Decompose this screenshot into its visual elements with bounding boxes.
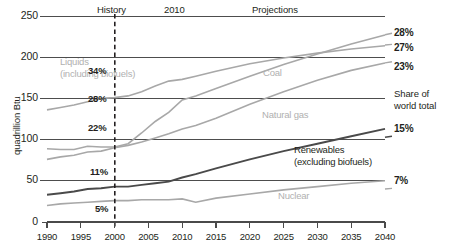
connector-coal (385, 33, 392, 35)
share-2010-liquids: 34% (88, 66, 106, 76)
connector-natural-gas (385, 62, 392, 63)
series-label-nuclear: Nuclear (278, 191, 309, 201)
projections-label: Projections (252, 5, 298, 15)
share-2040-coal: 28% (394, 28, 413, 38)
series-label-coal: Coal (263, 68, 282, 78)
history-label: History (97, 5, 126, 15)
share-2010-coal: 28% (88, 94, 106, 104)
y-tick-200: 200 (4, 51, 38, 62)
connector-liquids (385, 44, 392, 45)
series-label-renewables-line1: Renewables (294, 145, 344, 155)
series-label-natural-gas: Natural gas (262, 110, 308, 120)
share-2010-natural-gas: 22% (88, 123, 106, 133)
share-2040-nuclear: 7% (394, 176, 408, 186)
right-label-connectors (385, 33, 392, 189)
series-line-nuclear (47, 181, 385, 206)
y-tick-0: 0 (4, 216, 38, 227)
share-2010-nuclear: 5% (95, 204, 108, 214)
y-tick-100: 100 (4, 133, 38, 144)
share-2040-natural-gas: 23% (394, 62, 413, 72)
y-tick-50: 50 (4, 174, 38, 185)
connector-renewables (385, 136, 392, 137)
y-tick-150: 150 (4, 92, 38, 103)
y-axis-title: quadrillion Btu (12, 96, 22, 155)
share-note-line1: Share of (394, 88, 429, 100)
connector-nuclear (385, 188, 392, 189)
chart-plot-area (0, 0, 455, 250)
x-tick-2040: 2040 (365, 232, 405, 242)
share-2010-renewables: 11% (90, 167, 108, 177)
y-tick-250: 250 (4, 10, 38, 21)
series-label-renewables-line2: (excluding biofuels) (294, 157, 372, 167)
share-note-line2: world total (394, 100, 436, 112)
series-label-liquids-line1: Liquids (60, 57, 89, 67)
energy-consumption-line-chart: quadrillion Btu 250 200 150 100 50 0 199… (0, 0, 455, 250)
share-2040-liquids: 27% (394, 43, 413, 53)
share-2040-renewables: 15% (394, 124, 413, 134)
split-year-label: 2010 (164, 5, 185, 15)
y-axis-label-ticks (40, 16, 47, 222)
